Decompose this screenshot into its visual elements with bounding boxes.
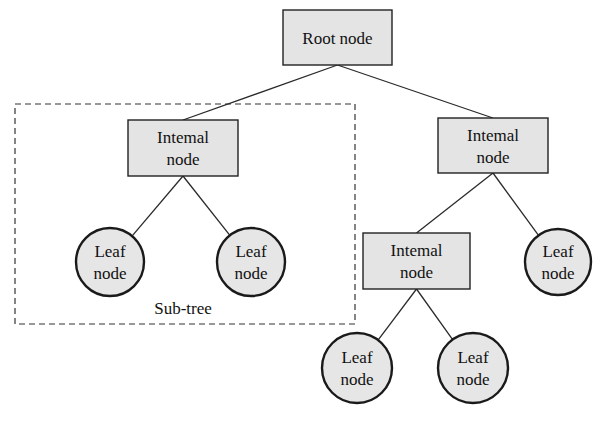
edge-root-to-internal-right (338, 65, 494, 118)
node-root: Root node (283, 10, 392, 65)
leaf-node-circle (217, 228, 285, 296)
node-label: Intemal (391, 241, 443, 260)
node-label: Intemal (467, 126, 519, 145)
node-leaf-1: Leafnode (76, 228, 144, 296)
tree-diagram: Sub-tree Root nodeIntemalnodeIntemalnode… (0, 0, 605, 433)
leaf-node-circle (322, 333, 392, 403)
node-label: node (166, 150, 199, 169)
leaf-node-circle (525, 229, 591, 295)
node-internal-lower: Intemalnode (363, 233, 470, 289)
edge-internal-lower-to-leaf-5 (417, 289, 453, 340)
node-label: node (234, 264, 267, 283)
node-internal-left: Intemalnode (128, 120, 238, 176)
subtree-label: Sub-tree (154, 299, 212, 318)
edge-internal-right-to-leaf-3 (493, 173, 539, 235)
node-label: Leaf (94, 242, 125, 261)
edge-internal-right-to-internal-lower (417, 173, 494, 233)
node-label: Root node (302, 29, 372, 48)
nodes: Root nodeIntemalnodeIntemalnodeIntemalno… (76, 10, 591, 403)
node-label: node (476, 148, 509, 167)
node-leaf-5: Leafnode (438, 333, 508, 403)
node-label: node (93, 264, 126, 283)
node-leaf-4: Leafnode (322, 333, 392, 403)
node-label: Intemal (157, 128, 209, 147)
edge-root-to-internal-left (183, 65, 338, 120)
leaf-node-circle (438, 333, 508, 403)
node-label: node (541, 264, 574, 283)
node-internal-right: Intemalnode (438, 118, 548, 173)
node-leaf-3: Leafnode (525, 229, 591, 295)
node-label: node (400, 263, 433, 282)
node-label: Leaf (235, 242, 266, 261)
edge-internal-left-to-leaf-1 (132, 176, 183, 236)
node-label: Leaf (341, 348, 372, 367)
node-label: Leaf (542, 242, 573, 261)
edge-internal-lower-to-leaf-4 (378, 289, 416, 340)
node-label: node (456, 370, 489, 389)
node-label: Leaf (457, 348, 488, 367)
edge-internal-left-to-leaf-2 (183, 176, 230, 235)
node-leaf-2: Leafnode (217, 228, 285, 296)
node-label: node (340, 370, 373, 389)
leaf-node-circle (76, 228, 144, 296)
